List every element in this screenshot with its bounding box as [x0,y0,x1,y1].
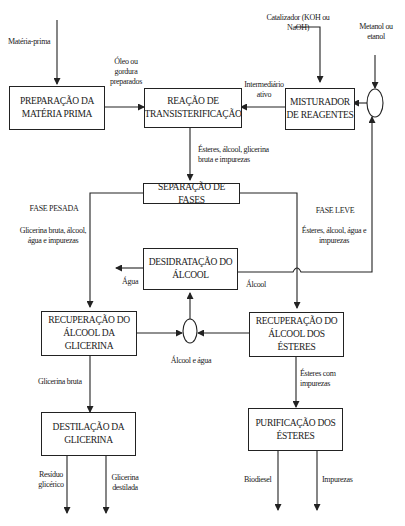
node-label: MISTURADOR DE REAGENTES [286,96,354,122]
label-metanol: Metanol ou etanol [352,22,400,42]
label-alcool-agua: Álcool e água [160,356,222,366]
node-reacao-transisterificacao: REAÇÃO DE TRANSISTERIFICAÇÃO [144,88,242,128]
label-esteres-mix: Ésteres, álcool, glicerina bruta e impur… [198,145,280,165]
node-label: RECUPERAÇÃO DO ÁLCOOL DA GLICERINA [42,314,136,353]
label-glicerina-bruta: Glicerina bruta [38,377,82,387]
label-alcool: Álcool [246,280,266,290]
label-impurezas: Impurezas [322,475,353,485]
node-label: RECUPERAÇÃO DO ÁLCOOL DOS ÉSTERES [250,315,343,354]
node-label: PURIFICAÇÃO DOS ÉSTERES [249,417,342,443]
label-oleo: Óleo ou gordura preparados [106,57,146,87]
label-fase-leve: FASE LEVE [305,206,365,216]
node-separacao-fases: SEPARAÇÃO DE FASES [143,183,240,204]
node-recuperacao-alcool-glicerina: RECUPERAÇÃO DO ÁLCOOL DA GLICERINA [41,311,137,356]
label-catalizador: Catalizador (KOH ou NaOH) [258,13,338,33]
node-label: DESTILAÇÃO DA GLICERINA [42,421,135,447]
node-label: DESIDRATAÇÃO DO ÁLCOOL [144,256,237,282]
node-destilacao-glicerina: DESTILAÇÃO DA GLICERINA [41,412,136,456]
label-biodiesel: Biodiesel [244,475,272,485]
label-glicerina-destilada: Glicerina destilada [108,473,142,493]
label-residuo-glicerico: Resíduo glicérico [36,470,66,490]
label-agua: Água [122,277,138,287]
label-fase-leve-desc: Ésteres, álcool, água e impurezas [299,226,369,246]
node-recuperacao-alcool-esteres: RECUPERAÇÃO DO ÁLCOOL DOS ÉSTERES [249,312,344,357]
node-label: REAÇÃO DE TRANSISTERIFICAÇÃO [145,95,242,121]
label-fase-pesada: FASE PESADA [18,204,90,214]
node-label: SEPARAÇÃO DE FASES [144,181,239,207]
node-preparacao-materia-prima: PREPARAÇÃO DA MATÉRIA PRIMA [9,86,105,130]
node-desidratacao-alcool: DESIDRATAÇÃO DO ÁLCOOL [143,248,238,290]
label-esteres-impurezas: Ésteres com impurezas [300,369,340,389]
node-purificacao-esteres: PURIFICAÇÃO DOS ÉSTERES [248,408,343,451]
label-fase-pesada-desc: Glicerina bruta, álcool, água e impureza… [16,226,90,246]
label-materia-prima: Matéria-prima [8,37,50,47]
label-intermediario: Intermediário ativo [243,80,285,100]
node-label: PREPARAÇÃO DA MATÉRIA PRIMA [10,95,104,121]
node-misturador-reagentes: MISTURADOR DE REAGENTES [285,88,355,130]
